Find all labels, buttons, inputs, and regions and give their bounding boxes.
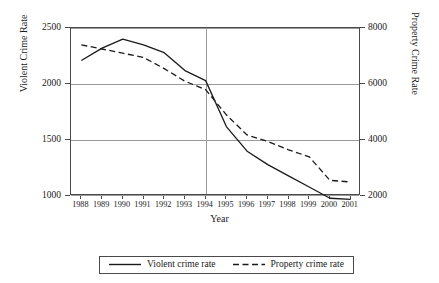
- chart-legend: Violent crime rate Property crime rate: [99, 256, 354, 274]
- legend-swatch-solid-icon: [109, 261, 141, 268]
- line-property-crime-rate: [81, 45, 350, 182]
- y-tick-left-1000: [65, 195, 70, 196]
- x-axis-title: Year: [0, 213, 439, 224]
- line-violent-crime-rate: [81, 39, 350, 199]
- y-tick-label-left-1000: 1000: [21, 191, 61, 201]
- y-tick-label-left-2000: 2000: [21, 79, 61, 89]
- legend-swatch-dashed-icon: [233, 261, 265, 268]
- legend-item-violent-crime-rate: Violent crime rate: [109, 260, 216, 270]
- y-tick-label-right-2000: 2000: [368, 191, 408, 201]
- plot-area: [70, 27, 360, 195]
- y-tick-label-left-1500: 1500: [21, 135, 61, 145]
- series-lines: [71, 28, 361, 196]
- x-tick-label-2001: 2001: [335, 201, 365, 209]
- y-tick-label-right-6000: 6000: [368, 79, 408, 89]
- legend-label-property-crime-rate: Property crime rate: [271, 260, 344, 270]
- y-tick-label-right-8000: 8000: [368, 23, 408, 33]
- legend-label-violent-crime-rate: Violent crime rate: [147, 260, 216, 270]
- y-axis-right-title: Property Crime Rate: [410, 0, 421, 119]
- y-tick-label-left-2500: 2500: [21, 23, 61, 33]
- legend-item-property-crime-rate: Property crime rate: [233, 260, 344, 270]
- chart-figure: Violent Crime Rate Property Crime Rate Y…: [0, 0, 439, 283]
- y-axis-left-title: Violent Crime Rate: [18, 0, 29, 119]
- y-tick-label-right-4000: 4000: [368, 135, 408, 145]
